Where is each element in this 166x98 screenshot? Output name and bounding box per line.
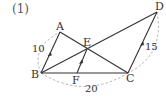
point-label-c: C bbox=[126, 72, 134, 85]
point-label-e: E bbox=[83, 36, 91, 49]
point-label-f: F bbox=[72, 74, 80, 87]
segment-ac bbox=[60, 32, 128, 73]
parallel-arrow-icon-ab bbox=[48, 53, 51, 57]
measure-label-bc: 20 bbox=[85, 83, 98, 94]
geometry-figure: A B C D E F 10 15 20 bbox=[0, 0, 166, 98]
point-label-a: A bbox=[55, 20, 65, 33]
parallel-arrow-icon-ef bbox=[80, 60, 83, 64]
measure-label-ab: 10 bbox=[32, 43, 45, 54]
point-label-d: D bbox=[155, 0, 164, 13]
point-label-b: B bbox=[31, 68, 39, 81]
measure-label-dc: 15 bbox=[145, 41, 158, 52]
